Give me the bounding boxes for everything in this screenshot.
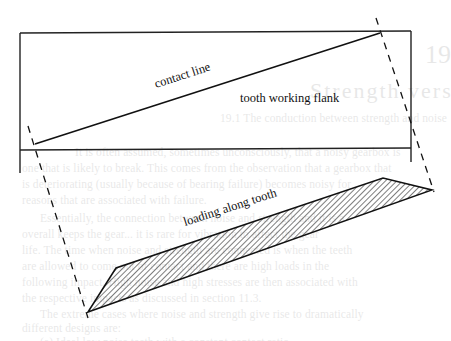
contact-line (35, 33, 380, 144)
tooth-working-flank-label: tooth working flank (240, 91, 340, 105)
flank-top-edge (20, 31, 411, 33)
right-projection-dashed-line (376, 18, 434, 192)
flank-bottom-edge (20, 148, 411, 150)
tooth-flank-outline (20, 31, 411, 173)
tooth-loading-diagram: contact line tooth working flank loading… (0, 0, 451, 341)
contact-line-label: contact line (153, 59, 213, 90)
left-projection-dashed-line (28, 126, 88, 318)
